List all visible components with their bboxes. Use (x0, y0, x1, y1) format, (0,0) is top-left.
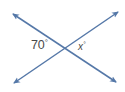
unknown-angle-label: x° (78, 42, 86, 52)
degree-symbol-icon: ° (83, 41, 86, 48)
degree-symbol-icon: ° (45, 38, 48, 47)
known-angle-value: 70 (31, 38, 45, 52)
known-angle-label: 70° (31, 39, 48, 52)
intersecting-lines-diagram (0, 0, 125, 92)
geometry-figure: 70° x° (0, 0, 125, 92)
